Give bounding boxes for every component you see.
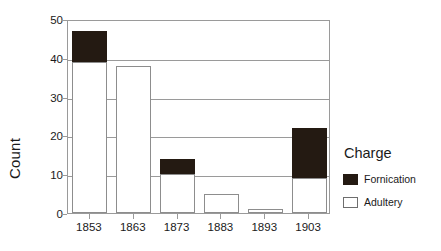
bar-group-1873[interactable] (160, 19, 195, 213)
legend-item-adultery[interactable]: Adultery (343, 196, 441, 208)
y-tick-label-20: 20 (23, 130, 63, 142)
bar-segment-adultery-1863[interactable] (116, 66, 151, 213)
bar-group-1863[interactable] (116, 19, 151, 213)
x-tick-label-1903: 1903 (278, 221, 338, 233)
legend: Charge FornicationAdultery (343, 145, 441, 219)
x-tick-mark-1863 (133, 214, 134, 219)
bar-segment-adultery-1883[interactable] (204, 194, 239, 213)
x-tick-mark-1893 (264, 214, 265, 219)
x-tick-mark-1873 (177, 214, 178, 219)
bar-segment-adultery-1903[interactable] (292, 178, 327, 213)
legend-swatch-fornication (343, 174, 358, 185)
legend-label-adultery: Adultery (364, 196, 403, 208)
plot-area (67, 20, 330, 214)
legend-swatch-adultery (343, 197, 358, 208)
legend-items: FornicationAdultery (343, 173, 441, 208)
legend-title: Charge (344, 145, 441, 161)
bar-segment-fornication-1853[interactable] (72, 31, 107, 62)
y-tick-mark-0 (61, 214, 67, 215)
bar-group-1893[interactable] (248, 19, 283, 213)
y-axis-title: Count (6, 119, 23, 199)
bar-segment-adultery-1893[interactable] (248, 209, 283, 213)
x-tick-mark-1853 (89, 214, 90, 219)
legend-item-fornication[interactable]: Fornication (343, 173, 441, 185)
bar-segment-adultery-1873[interactable] (160, 174, 195, 213)
bar-group-1903[interactable] (292, 19, 327, 213)
x-tick-mark-1883 (220, 214, 221, 219)
y-tick-label-30: 30 (23, 92, 63, 104)
bar-segment-adultery-1853[interactable] (72, 62, 107, 213)
y-tick-label-50: 50 (23, 14, 63, 26)
bar-segment-fornication-1873[interactable] (160, 159, 195, 175)
legend-label-fornication: Fornication (364, 173, 416, 185)
bar-segment-fornication-1903[interactable] (292, 128, 327, 178)
x-tick-mark-1903 (308, 214, 309, 219)
bar-group-1883[interactable] (204, 19, 239, 213)
y-tick-label-0: 0 (23, 208, 63, 220)
bar-chart-figure: Count 01020304050 1853186318731883189319… (0, 0, 441, 251)
y-tick-label-40: 40 (23, 53, 63, 65)
bar-group-1853[interactable] (72, 19, 107, 213)
y-tick-label-10: 10 (23, 169, 63, 181)
